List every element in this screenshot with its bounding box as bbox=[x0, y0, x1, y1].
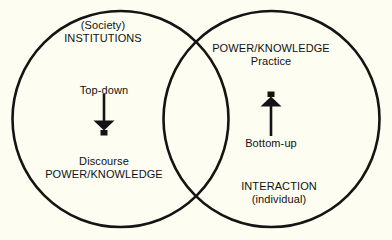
left-top-line-1: (Society) bbox=[38, 19, 168, 32]
bottom-up-text: Bottom-up bbox=[216, 137, 326, 150]
top-down-arrow-icon bbox=[94, 94, 115, 136]
right-top-line-2: Practice bbox=[196, 55, 346, 68]
left-circle-top-label: (Society) INSTITUTIONS bbox=[38, 19, 168, 45]
bottom-up-arrow-icon bbox=[261, 92, 282, 137]
right-bottom-line-1: INTERACTION bbox=[214, 180, 344, 193]
bottom-up-caption: Bottom-up bbox=[216, 137, 326, 150]
left-bottom-line-2: POWER/KNOWLEDGE bbox=[25, 168, 183, 181]
left-top-line-2: INSTITUTIONS bbox=[38, 32, 168, 45]
top-down-caption: Top-down bbox=[49, 84, 159, 97]
top-down-text: Top-down bbox=[49, 84, 159, 97]
left-circle-bottom-label: Discourse POWER/KNOWLEDGE bbox=[25, 155, 183, 181]
venn-diagram: (Society) INSTITUTIONS Top-down Discours… bbox=[0, 0, 392, 240]
right-bottom-line-2: (individual) bbox=[214, 193, 344, 206]
right-circle-bottom-label: INTERACTION (individual) bbox=[214, 180, 344, 206]
right-circle-top-label: POWER/KNOWLEDGE Practice bbox=[196, 42, 346, 68]
left-bottom-line-1: Discourse bbox=[25, 155, 183, 168]
right-top-line-1: POWER/KNOWLEDGE bbox=[196, 42, 346, 55]
